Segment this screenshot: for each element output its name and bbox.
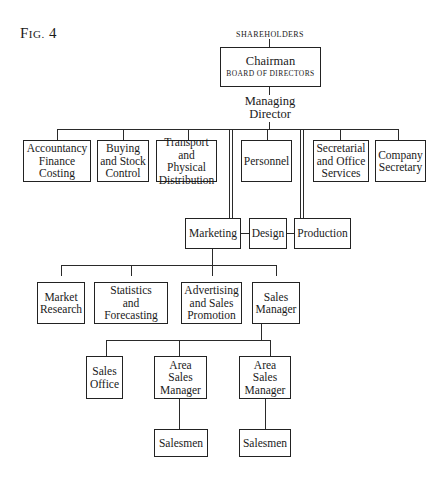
sales-bar (106, 340, 271, 341)
chairman-title: Chairman (246, 54, 295, 68)
drop-sales-office (106, 340, 107, 356)
connector-asm1-salesmen (179, 399, 180, 429)
area-sales-manager-2-box: Area Sales Manager (239, 356, 291, 399)
double-line-right-b (303, 129, 304, 218)
dept-company-secretary-box: Company Secretary (375, 140, 426, 182)
connector-marketing-down (212, 249, 213, 265)
drop-personnel (267, 129, 268, 140)
figure-label-smallcaps: IG. (29, 28, 45, 40)
managing-director-label: Managing Director (220, 95, 320, 121)
salesmen-2-box: Salesmen (239, 429, 291, 457)
salesmen-1-box: Salesmen (154, 429, 208, 457)
double-line-left-a (229, 129, 230, 218)
dept-accountancy-box: Accountancy Finance Costing (23, 140, 91, 182)
drop-advertising (212, 265, 213, 276)
figure-label-number: 4 (45, 25, 57, 41)
sales-manager-box: Sales Manager (252, 282, 300, 324)
drop-statistics (131, 265, 132, 276)
drop-secretarial (340, 129, 341, 140)
connector-design-production (287, 233, 294, 234)
statistics-forecasting-box: Statistics and Forecasting (94, 282, 168, 324)
directorate-bar (57, 129, 380, 130)
dept-secretarial-box: Secretarial and Office Services (313, 140, 369, 182)
bar-extension-right (340, 129, 399, 130)
design-box: Design (249, 218, 287, 249)
connector-asm2-salesmen (265, 399, 266, 429)
drop-company-secretary (398, 129, 399, 140)
connector-sales-manager-down (261, 324, 262, 340)
marketing-box: Marketing (185, 218, 241, 249)
drop-market-research (61, 265, 62, 276)
figure-label-prefix: F (20, 25, 29, 41)
production-box: Production (294, 218, 351, 249)
marketing-bar (61, 265, 277, 266)
drop-buying (123, 129, 124, 140)
figure-label: FIG. 4 (20, 25, 57, 42)
board-of-directors-label: BOARD OF DIRECTORS (226, 68, 314, 80)
drop-sales-manager (276, 265, 277, 276)
dept-personnel-box: Personnel (241, 140, 292, 182)
connector-md-bar (269, 122, 270, 129)
area-sales-manager-1-box: Area Sales Manager (154, 356, 207, 399)
sales-office-box: Sales Office (86, 356, 123, 399)
chairman-board-box: Chairman BOARD OF DIRECTORS (220, 47, 321, 87)
dept-transport-box: Transport and Physical Distribution (156, 140, 217, 182)
double-line-left-b (232, 129, 233, 218)
advertising-promotion-box: Advertising and Sales Promotion (181, 282, 242, 324)
market-research-box: Market Research (37, 282, 85, 324)
drop-area-sales-1 (179, 340, 180, 356)
drop-area-sales-2 (270, 340, 271, 356)
connector-marketing-design (241, 233, 249, 234)
dept-buying-box: Buying and Stock Control (97, 140, 149, 182)
connector-shareholders-chairman (269, 39, 270, 47)
double-line-right-a (300, 129, 301, 218)
drop-accountancy (57, 129, 58, 140)
shareholders-label: SHAREHOLDERS (220, 28, 320, 41)
